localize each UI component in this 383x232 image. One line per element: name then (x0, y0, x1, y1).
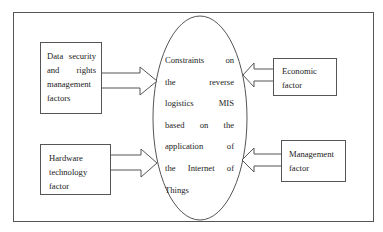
arrow-right-icon (101, 67, 157, 95)
arrow-left-icon (242, 148, 281, 172)
factor-label-line: Management (289, 147, 340, 161)
center-label-line: the Internet of (165, 158, 234, 180)
factor-box-data-security: Data security and rights management fact… (40, 42, 102, 114)
factor-label-line: factor (289, 161, 340, 175)
factor-label-line: factor (282, 78, 331, 92)
center-label-line: Constraints on (165, 50, 234, 72)
factor-box-hardware-technology: Hardware technology factor (40, 144, 111, 195)
factor-label-line: Data security (47, 49, 96, 63)
center-label-line: the reverse (165, 72, 234, 94)
factor-label-line: and rights (47, 63, 96, 77)
factor-label-line: Economic (282, 64, 331, 78)
factor-label-line: technology (49, 165, 105, 179)
arrow-right-icon (110, 149, 157, 177)
center-label-line: Things (165, 180, 234, 202)
factor-label-line: management (47, 77, 96, 91)
factor-label-line: factors (47, 91, 96, 105)
factor-label-line: factor (49, 179, 105, 193)
center-label-line: logistics MIS (165, 93, 234, 115)
center-label: Constraints on the reverse logistics MIS… (165, 50, 234, 201)
center-label-line: application of (165, 136, 234, 158)
factor-box-economic: Economic factor (273, 58, 337, 96)
factor-label-line: Hardware (49, 151, 105, 165)
factor-box-management: Management factor (281, 140, 346, 182)
center-label-line: based on the (165, 115, 234, 137)
arrow-left-icon (243, 63, 273, 87)
diagram-canvas: Constraints on the reverse logistics MIS… (0, 0, 383, 232)
